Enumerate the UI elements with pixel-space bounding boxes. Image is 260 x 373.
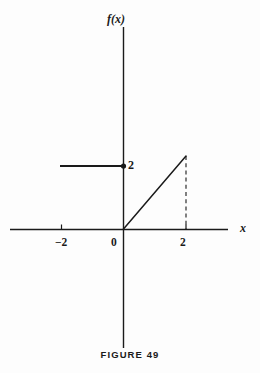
x-tick-label-zero: 0 <box>111 237 117 249</box>
plot-canvas <box>0 0 260 373</box>
figure-caption: FIGURE 49 <box>0 350 260 360</box>
x-axis-label: x <box>240 222 246 234</box>
figure-container: f(x) x −2 0 2 2 FIGURE 49 <box>0 0 260 373</box>
closed-point-marker <box>121 163 126 168</box>
x-tick-label-negative-two: −2 <box>55 237 67 249</box>
x-tick-label-positive-two: 2 <box>180 237 186 249</box>
y-value-label-two: 2 <box>128 159 134 171</box>
y-axis-label: f(x) <box>107 13 125 25</box>
